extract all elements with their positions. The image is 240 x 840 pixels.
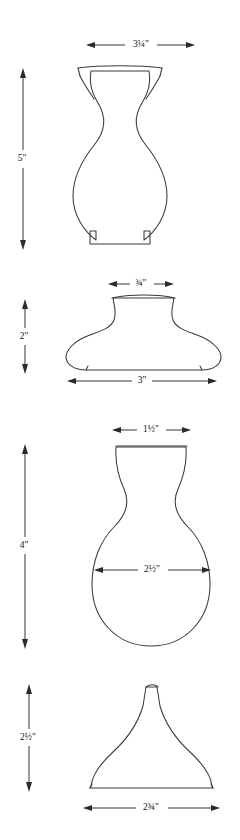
figure-3-mouth-dimension: 1½"	[112, 422, 191, 438]
figure-2-body-arrow-right	[208, 378, 217, 384]
figure-3-height-arrow-bottom	[22, 639, 28, 649]
figure-4-vessel-outline	[90, 687, 213, 788]
figure-4-body-arrow-left	[83, 805, 92, 811]
figure-2-body-arrow-left	[67, 378, 76, 384]
figure-4-height-arrow-top	[26, 684, 32, 694]
plate-canvas: 3¼" 5" ¾"	[0, 0, 240, 840]
figure-3-height-dimension: 4"	[14, 444, 36, 649]
figure-1-height-arrow-top	[20, 68, 26, 78]
figure-3-mouth-label: 1½"	[143, 424, 159, 434]
figure-4-group: 2½" 2¾"	[14, 684, 220, 816]
vessel-dimension-plate: 3¼" 5" ¾"	[0, 0, 240, 840]
figure-1-mouth-arrow-left	[86, 42, 95, 48]
figure-3-body-dimension: 2½"	[94, 562, 211, 578]
figure-1-rim-line	[78, 66, 162, 68]
figure-1-lip-inner-curve	[80, 76, 160, 99]
figure-2-height-arrow-bottom	[22, 364, 28, 374]
figure-2-height-arrow-top	[22, 299, 28, 309]
figure-3-height-arrow-top	[22, 444, 28, 454]
figure-2-foot-edges	[86, 366, 202, 370]
figure-2-height-label: 2"	[20, 331, 29, 341]
figure-3-body-arrow-left	[94, 567, 103, 573]
figure-2-body-dimension: 3"	[67, 373, 217, 389]
figure-1-height-label: 5"	[18, 153, 27, 163]
figure-2-mouth-arrow-right	[165, 281, 174, 287]
figure-2-mouth-dimension: ¾"	[108, 276, 174, 292]
figure-1-height-arrow-bottom	[20, 240, 26, 250]
figure-4-height-arrow-bottom	[26, 782, 32, 792]
figure-4-body-label: 2¾"	[143, 802, 159, 812]
figure-3-group: 1½" 4" 2½"	[14, 422, 211, 649]
figure-4-body-dimension: 2¾"	[83, 800, 220, 816]
figure-4-height-label: 2½"	[20, 732, 36, 742]
figure-3-vessel-outline	[92, 447, 210, 646]
figure-3-height-label: 4"	[20, 540, 29, 550]
figure-4-body-arrow-right	[211, 805, 220, 811]
figure-1-mouth-label: 3¼"	[133, 39, 149, 49]
figure-2-group: ¾" 2" 3"	[14, 276, 221, 389]
figure-4-height-dimension: 2½"	[14, 684, 44, 792]
figure-2-height-dimension: 2"	[14, 299, 36, 374]
figure-1-mouth-dimension: 3¼"	[86, 37, 195, 53]
figure-2-vessel-outline	[66, 298, 221, 370]
figure-3-body-label: 2½"	[144, 564, 160, 574]
figure-2-body-label: 3"	[138, 375, 147, 385]
figure-1-mouth-arrow-right	[186, 42, 195, 48]
figure-2-mouth-label: ¾"	[135, 278, 146, 288]
figure-3-mouth-arrow-right	[182, 427, 191, 433]
figure-4-foot-edges	[90, 784, 213, 788]
figure-2-mouth-arrow-left	[108, 281, 117, 287]
figure-1-height-dimension: 5"	[11, 68, 35, 250]
figure-1-vessel-outline	[73, 71, 167, 244]
figure-1-group: 3¼" 5"	[11, 37, 195, 250]
figure-3-mouth-arrow-left	[112, 427, 121, 433]
